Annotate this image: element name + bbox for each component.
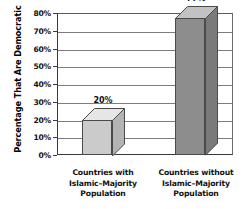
y-tick-mark <box>53 155 57 156</box>
y-tick-label: 50% <box>5 62 51 71</box>
x-axis-label-line: Countries with <box>55 168 151 179</box>
y-tick-mark <box>53 31 57 32</box>
bar-front-face <box>175 18 205 155</box>
x-axis-label-line: Population <box>148 189 244 200</box>
bar-side-face <box>205 6 219 157</box>
bar <box>82 120 112 156</box>
bar <box>175 18 205 155</box>
bar-front-face <box>82 120 112 156</box>
y-tick-mark <box>53 13 57 14</box>
y-tick-mark <box>53 49 57 50</box>
bar-value-label: 77% <box>167 0 225 3</box>
x-axis-category-label: Countries withoutIslamic–MajorityPopulat… <box>148 168 244 200</box>
x-axis-label-line: Islamic–Majority <box>148 179 244 190</box>
y-tick-label: 10% <box>5 133 51 142</box>
x-axis-label-line: Islamic–Majority <box>55 179 151 190</box>
x-axis-label-line: Population <box>55 189 151 200</box>
y-tick-mark <box>53 66 57 67</box>
bar-side-face <box>112 108 126 158</box>
bar-chart: Percentage That Are Democratic 0%10%20%3… <box>0 0 251 209</box>
y-tick-label: 70% <box>5 26 51 35</box>
y-tick-label: 60% <box>5 44 51 53</box>
y-tick-mark <box>53 137 57 138</box>
bar-value-label: 20% <box>74 96 132 105</box>
y-tick-mark <box>53 84 57 85</box>
x-axis-category-label: Countries withIslamic–MajorityPopulation <box>55 168 151 200</box>
y-tick-label: 20% <box>5 115 51 124</box>
y-tick-label: 80% <box>5 9 51 18</box>
y-tick-label: 0% <box>5 151 51 160</box>
x-axis-label-line: Countries without <box>148 168 244 179</box>
y-tick-label: 30% <box>5 97 51 106</box>
y-tick-mark <box>53 120 57 121</box>
y-tick-mark <box>53 102 57 103</box>
y-tick-label: 40% <box>5 80 51 89</box>
